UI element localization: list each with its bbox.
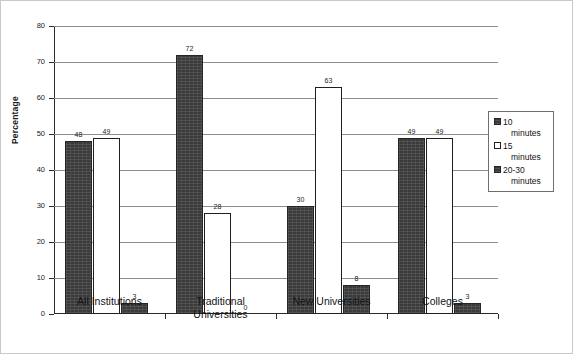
- bar-value-label: 63: [325, 77, 333, 84]
- y-tick-label-0: 0: [41, 310, 45, 318]
- bar-value-label: 49: [408, 128, 416, 135]
- bar[interactable]: [65, 141, 92, 314]
- x-axis-category-line: New Universities: [276, 295, 387, 308]
- bar-value-label: 72: [186, 45, 194, 52]
- y-tick-label-40: 40: [37, 166, 45, 174]
- legend-item[interactable]: 20-30minutes: [494, 165, 549, 186]
- y-tick-mark-30: [49, 206, 54, 207]
- y-tick-label-20: 20: [37, 238, 45, 246]
- y-axis-title: Percentage: [10, 96, 20, 144]
- bar[interactable]: [176, 55, 203, 314]
- y-tick-label-80: 80: [37, 22, 45, 30]
- bar[interactable]: [426, 138, 453, 314]
- bar-value-label: 28: [214, 203, 222, 210]
- x-axis-category-line: All Institutions: [54, 295, 165, 308]
- bar-value-label: 49: [103, 128, 111, 135]
- legend-label-line2: minutes: [503, 128, 541, 139]
- bar-group: 49493: [398, 26, 481, 314]
- y-tick-label-60: 60: [37, 94, 45, 102]
- y-axis-ticks: 01020304050607080: [1, 26, 54, 314]
- legend-swatch-icon: [494, 166, 501, 173]
- x-axis-category-label: New Universities: [276, 295, 387, 308]
- y-tick-mark-50: [49, 134, 54, 135]
- y-tick-mark-60: [49, 98, 54, 99]
- y-tick-mark-40: [49, 170, 54, 171]
- x-axis-separator: [498, 314, 499, 319]
- bar[interactable]: [315, 87, 342, 314]
- x-axis-category-label: All Institutions: [54, 295, 165, 308]
- y-tick-label-10: 10: [37, 274, 45, 282]
- legend-label: 15minutes: [503, 141, 541, 162]
- x-axis-separator: [276, 314, 277, 319]
- bar[interactable]: [93, 138, 120, 314]
- y-tick-label-30: 30: [37, 202, 45, 210]
- x-axis-category-label: Colleges: [387, 295, 498, 308]
- x-axis-category-line: Universities: [165, 308, 276, 321]
- chart-figure: 01020304050607080 Percentage 48493722803…: [0, 0, 573, 354]
- bar-value-label: 8: [355, 275, 359, 282]
- y-tick-mark-70: [49, 62, 54, 63]
- x-axis-category-label: TraditionalUniversities: [165, 295, 276, 320]
- bar[interactable]: [398, 138, 425, 314]
- legend-label-line1: 10: [503, 117, 512, 127]
- bar-value-label: 49: [436, 128, 444, 135]
- y-tick-label-50: 50: [37, 130, 45, 138]
- legend-label: 20-30minutes: [503, 165, 541, 186]
- bar-group: 48493: [65, 26, 148, 314]
- y-tick-mark-80: [49, 26, 54, 27]
- bar-group: 72280: [176, 26, 259, 314]
- x-axis-separator: [387, 314, 388, 319]
- bar-group: 30638: [287, 26, 370, 314]
- y-tick-label-70: 70: [37, 58, 45, 66]
- bar-value-label: 48: [75, 131, 83, 138]
- legend-label: 10minutes: [503, 117, 541, 138]
- plot-area: 01020304050607080 Percentage 48493722803…: [54, 26, 498, 314]
- y-tick-mark-0: [49, 314, 54, 315]
- x-axis-category-line: Traditional: [165, 295, 276, 308]
- bar-value-label: 30: [297, 196, 305, 203]
- legend-item[interactable]: 10minutes: [494, 117, 549, 138]
- legend-swatch-icon: [494, 142, 501, 149]
- legend-label-line1: 20-30: [503, 165, 525, 175]
- legend-label-line1: 15: [503, 141, 512, 151]
- y-tick-mark-10: [49, 278, 54, 279]
- legend-label-line2: minutes: [503, 152, 541, 163]
- legend-label-line2: minutes: [503, 176, 541, 187]
- x-axis-category-line: Colleges: [387, 295, 498, 308]
- legend-item[interactable]: 15minutes: [494, 141, 549, 162]
- y-tick-mark-20: [49, 242, 54, 243]
- legend-swatch-icon: [494, 118, 501, 125]
- chart-legend: 10minutes15minutes20-30minutes: [488, 111, 554, 192]
